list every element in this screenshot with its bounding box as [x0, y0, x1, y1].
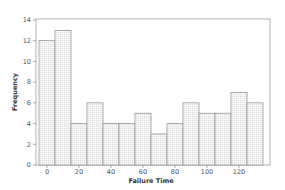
y-tick-label: 10 [23, 58, 31, 66]
histogram-bar [183, 103, 199, 165]
x-axis: 020406080100120 [45, 165, 245, 176]
histogram-bar [39, 41, 55, 165]
x-tick-label: 100 [201, 168, 213, 176]
histogram-bar [215, 113, 231, 165]
x-tick-label: 120 [233, 168, 245, 176]
histogram-bar [199, 113, 215, 165]
y-tick-label: 8 [27, 78, 31, 86]
y-tick-label: 2 [27, 141, 31, 149]
x-tick-label: 60 [139, 168, 147, 176]
y-tick-label: 6 [27, 99, 31, 107]
x-tick-label: 20 [75, 168, 83, 176]
x-tick-label: 0 [45, 168, 49, 176]
histogram-bar [247, 103, 263, 165]
y-tick-label: 4 [27, 120, 31, 128]
histogram-bar [231, 92, 247, 165]
histogram-bar [151, 134, 167, 165]
y-tick-label: 14 [23, 16, 31, 24]
histogram-bar [55, 30, 71, 165]
histogram-bar [71, 124, 87, 165]
x-tick-label: 40 [107, 168, 115, 176]
histogram-bar [135, 113, 151, 165]
histogram-bar [119, 124, 135, 165]
y-tick-label: 0 [27, 161, 31, 169]
histogram-bar [103, 124, 119, 165]
histogram-bar [87, 103, 103, 165]
x-axis-title: Failure Time [128, 177, 174, 185]
histogram-bar [167, 124, 183, 165]
y-axis: 02468101214 [23, 16, 36, 169]
x-tick-label: 80 [171, 168, 179, 176]
y-axis-title: Frequency [11, 72, 19, 111]
y-tick-label: 12 [23, 37, 31, 45]
histogram-chart: 02468101214 020406080100120 Failure Time… [0, 0, 285, 190]
